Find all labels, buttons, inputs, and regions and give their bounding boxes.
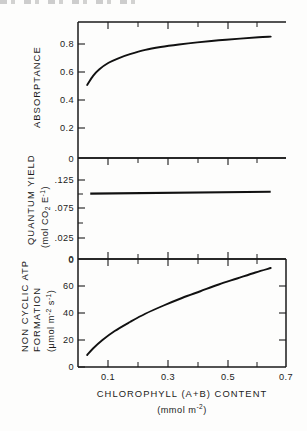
absorptance-curve: [87, 37, 271, 85]
atp-x-ticks: [108, 360, 257, 367]
absorptance-top-ticks: [108, 22, 257, 29]
qy-tick-3: .025: [55, 233, 74, 243]
atp-top-ticks: [108, 259, 257, 266]
atp-formation-panel: 0 60 40 20 0 NON CYCLIC ATP FORMATION (μ…: [19, 255, 286, 372]
quantum-yield-frame: [78, 158, 286, 259]
absorptance-axis-label: ABSORPTANCE: [31, 46, 42, 128]
absorptance-y-ticklabels: 0.8 0.6 0.4 0.2: [60, 39, 74, 133]
x-ticklabels: 0.1 0.3 0.5 0.7: [101, 372, 293, 382]
qy-tick-0: 0: [68, 154, 74, 164]
figure-container: 0.8 0.6 0.4 0.2 ABSORPTANCE: [0, 0, 307, 431]
abs-tick-1: 0.6: [60, 67, 74, 77]
quantum-yield-line: [90, 192, 270, 194]
x-tick-0: 0.1: [101, 372, 115, 382]
quantum-yield-axis-label-line2: (mol CO2 E-1): [39, 186, 51, 248]
atp-tick-0: 60: [63, 281, 74, 291]
atp-tick-1: 40: [63, 308, 74, 318]
qy-y-ticks: [78, 180, 85, 238]
quantum-yield-axis-label-line1: QUANTUM YIELD: [25, 154, 36, 245]
x-tick-2: 0.5: [221, 372, 235, 382]
scan-artifact: [0, 0, 140, 4]
x-axis-label-line1: CHLOROPHYLL (A+B) CONTENT: [97, 388, 267, 399]
x-tick-1: 0.3: [161, 372, 175, 382]
atp-axis-label-line2: FORMATION: [31, 287, 42, 352]
abs-tick-2: 0.4: [60, 95, 74, 105]
qy-top-ticks: [108, 158, 257, 165]
atp-right-ticks: [279, 286, 286, 340]
absorptance-panel: 0.8 0.6 0.4 0.2 ABSORPTANCE: [31, 22, 286, 158]
absorptance-y-ticks: [78, 44, 85, 128]
atp-y-ticks: [78, 286, 85, 367]
atp-tick-3: 0: [68, 362, 74, 372]
qy-tick-2: .075: [55, 203, 74, 213]
absorptance-frame: [78, 22, 286, 158]
atp-axis-label-line1: NON CYCLIC ATP: [19, 260, 30, 352]
abs-tick-3: 0.2: [60, 123, 74, 133]
atp-tick-2: 20: [63, 335, 74, 345]
x-tick-3: 0.7: [279, 372, 293, 382]
qy-y-ticklabels: 0 .125 .075 .025 0: [55, 154, 74, 264]
atp-y-ticklabels: 0 60 40 20 0: [63, 255, 74, 372]
atp-tick-top0: 0: [68, 255, 74, 265]
abs-tick-0: 0.8: [60, 39, 74, 49]
atp-curve: [87, 268, 271, 355]
qy-bottom-ticks: [108, 252, 257, 259]
multi-panel-plot: 0.8 0.6 0.4 0.2 ABSORPTANCE: [0, 0, 307, 431]
atp-axis-label-line3: (μmol m-2 s-1): [45, 290, 56, 352]
atp-frame: [78, 259, 286, 367]
x-axis-label-line2: (mmol m-2): [157, 403, 207, 415]
quantum-yield-panel: 0 .125 .075 .025 0 QUANTUM YIELD (mol CO…: [25, 154, 286, 264]
qy-tick-1: .125: [55, 175, 74, 185]
